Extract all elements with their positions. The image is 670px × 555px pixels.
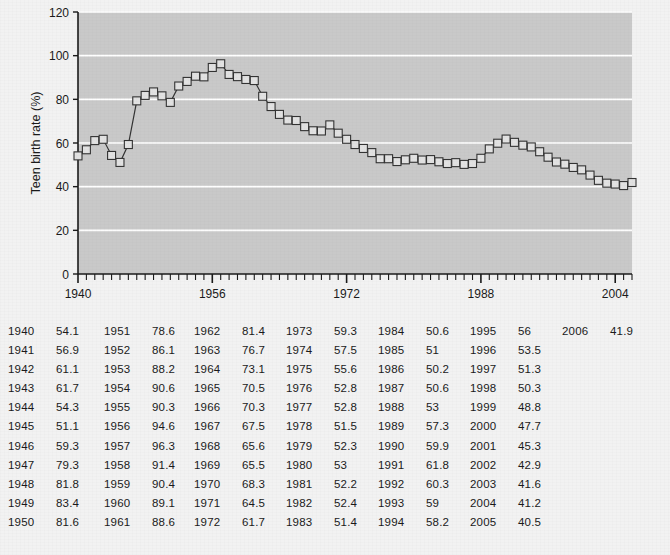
x-tick-label: 1940 <box>65 287 92 301</box>
table-row: 194779.3 <box>8 456 96 475</box>
table-row: 200341.6 <box>470 475 558 494</box>
table-cell-value: 40.5 <box>508 513 558 532</box>
table-cell-value: 65.6 <box>232 437 282 456</box>
x-tick-label: 1956 <box>199 287 226 301</box>
table-cell-value: 41.9 <box>600 322 650 341</box>
table-cell-year: 1992 <box>378 475 416 494</box>
table-row: 195081.6 <box>8 513 96 532</box>
table-cell-value: 41.2 <box>508 494 558 513</box>
table-cell-year: 1988 <box>378 398 416 417</box>
table-cell-year: 1952 <box>104 341 142 360</box>
y-tick-label: 80 <box>56 93 70 107</box>
data-point-marker <box>460 160 468 168</box>
table-cell-year: 1971 <box>194 494 232 513</box>
table-cell-value: 91.4 <box>142 456 192 475</box>
data-point-marker <box>510 138 518 146</box>
data-point-marker <box>544 153 552 161</box>
data-point-marker <box>376 155 384 163</box>
table-row: 199948.8 <box>470 398 558 417</box>
table-cell-year: 1953 <box>104 360 142 379</box>
table-cell-value: 89.1 <box>142 494 192 513</box>
table-cell-value: 61.1 <box>46 360 96 379</box>
table-row: 195990.4 <box>104 475 192 494</box>
data-point-marker <box>427 156 435 164</box>
table-cell-value: 47.7 <box>508 417 558 436</box>
table-cell-value: 48.8 <box>508 398 558 417</box>
table-row: 197752.8 <box>286 398 374 417</box>
table-cell-year: 1978 <box>286 417 324 436</box>
table-row: 196670.3 <box>194 398 282 417</box>
table-row: 199059.9 <box>378 437 466 456</box>
table-cell-value: 54.1 <box>46 322 96 341</box>
table-cell-year: 1940 <box>8 322 46 341</box>
data-point-marker <box>217 60 225 68</box>
table-cell-year: 1998 <box>470 379 508 398</box>
data-point-marker <box>418 156 426 164</box>
table-row: 194983.4 <box>8 494 96 513</box>
table-cell-year: 1973 <box>286 322 324 341</box>
table-row: 198152.2 <box>286 475 374 494</box>
data-point-marker <box>385 155 393 163</box>
table-row: 198650.2 <box>378 360 466 379</box>
table-row: 199850.3 <box>470 379 558 398</box>
table-cell-year: 1985 <box>378 341 416 360</box>
table-cell-year: 1995 <box>470 322 508 341</box>
data-point-marker <box>74 152 82 160</box>
table-row: 195891.4 <box>104 456 192 475</box>
x-axis-ticks: 19401956197219882004 <box>65 274 632 301</box>
table-cell-value: 53.5 <box>508 341 558 360</box>
table-cell-value: 94.6 <box>142 417 192 436</box>
data-point-marker <box>91 137 99 145</box>
table-cell-value: 59 <box>416 494 466 513</box>
table-cell-value: 41.6 <box>508 475 558 494</box>
table-cell-year: 1976 <box>286 379 324 398</box>
table-cell-year: 1970 <box>194 475 232 494</box>
data-point-marker <box>326 121 334 129</box>
table-cell-value: 86.1 <box>142 341 192 360</box>
table-cell-value: 90.6 <box>142 379 192 398</box>
table-row: 194881.8 <box>8 475 96 494</box>
table-row: 198750.6 <box>378 379 466 398</box>
table-cell-year: 1946 <box>8 437 46 456</box>
table-cell-value: 53 <box>416 398 466 417</box>
table-cell-value: 51.3 <box>508 360 558 379</box>
table-cell-year: 1977 <box>286 398 324 417</box>
table-cell-value: 96.3 <box>142 437 192 456</box>
data-point-marker <box>569 163 577 171</box>
table-cell-value: 81.6 <box>46 513 96 532</box>
table-cell-year: 1996 <box>470 341 508 360</box>
table-cell-value: 90.3 <box>142 398 192 417</box>
table-cell-year: 1945 <box>8 417 46 436</box>
data-point-marker <box>359 144 367 152</box>
table-cell-year: 1956 <box>104 417 142 436</box>
table-cell-value: 52.2 <box>324 475 374 494</box>
table-row: 199260.3 <box>378 475 466 494</box>
data-point-marker <box>284 116 292 124</box>
table-row: 194551.1 <box>8 417 96 436</box>
data-point-marker <box>183 77 191 85</box>
table-cell-value: 88.6 <box>142 513 192 532</box>
table-row: 197652.8 <box>286 379 374 398</box>
table-cell-year: 1975 <box>286 360 324 379</box>
table-cell-year: 2006 <box>562 322 600 341</box>
data-point-marker <box>150 88 158 96</box>
table-row: 197261.7 <box>194 513 282 532</box>
table-row: 197457.5 <box>286 341 374 360</box>
data-point-marker <box>452 159 460 167</box>
table-cell-year: 1949 <box>8 494 46 513</box>
data-point-marker <box>628 179 636 187</box>
table-cell-value: 55.6 <box>324 360 374 379</box>
table-cell-year: 1981 <box>286 475 324 494</box>
table-cell-year: 2005 <box>470 513 508 532</box>
x-tick-label: 1988 <box>468 287 495 301</box>
table-row: 198957.3 <box>378 417 466 436</box>
table-column-group: 199556199653.5199751.3199850.3199948.820… <box>470 322 558 532</box>
data-point-marker <box>124 141 132 149</box>
table-row: 200641.9 <box>562 322 650 341</box>
data-point-marker <box>519 141 527 149</box>
table-cell-year: 1961 <box>104 513 142 532</box>
table-row: 196188.6 <box>104 513 192 532</box>
data-point-marker <box>368 149 376 157</box>
data-point-marker <box>334 129 342 137</box>
data-point-marker <box>578 166 586 174</box>
